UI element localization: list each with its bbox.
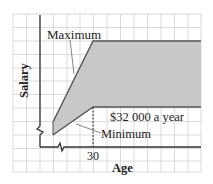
x-tick-30: 30	[87, 149, 99, 163]
salary-age-chart: Maximum $32 000 a year Minimum 30 Age Sa…	[0, 0, 213, 184]
maximum-label: Maximum	[47, 27, 101, 42]
y-axis-label: Salary	[17, 63, 31, 98]
plateau-label: $32 000 a year	[110, 110, 185, 124]
minimum-label: Minimum	[101, 127, 151, 141]
x-axis-label: Age	[112, 161, 133, 175]
